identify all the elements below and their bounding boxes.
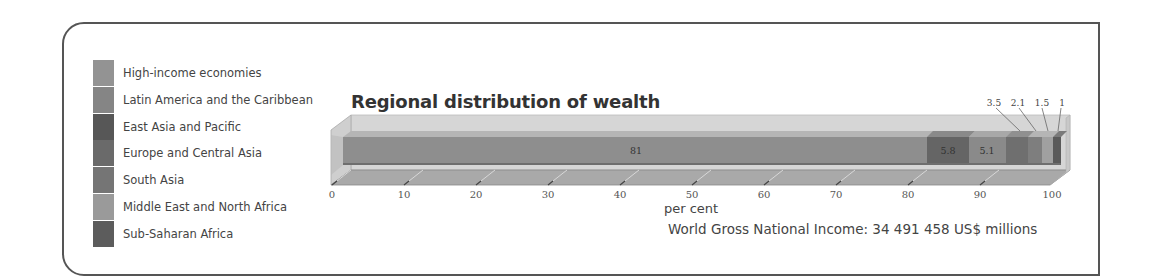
segment-europe-central-asia: [1006, 137, 1028, 165]
segment-south-asia: [1028, 137, 1042, 165]
footer-note: World Gross National Income: 34 491 458 …: [668, 221, 1037, 237]
callout-europe-central-asia: 3.5: [987, 98, 1001, 108]
callout-sub-saharan: 1: [1059, 98, 1065, 108]
x-tick: 30: [542, 189, 555, 200]
x-axis-label: per cent: [664, 201, 718, 216]
x-tick: 70: [830, 189, 843, 200]
x-tick: 20: [470, 189, 483, 200]
segment-sub-saharan: [1053, 137, 1061, 165]
bar-shadow: [343, 163, 1061, 165]
segment-top: [927, 131, 975, 137]
x-tick: 0: [329, 189, 335, 200]
x-tick: 80: [902, 189, 915, 200]
callout-south-asia: 2.1: [1011, 98, 1025, 108]
segment-label-high-income: 81: [630, 145, 642, 156]
segment-label-latin-america: 5.8: [940, 145, 955, 156]
x-tick: 60: [758, 189, 771, 200]
x-tick: 10: [398, 189, 411, 200]
x-tick: 40: [614, 189, 627, 200]
callout-middle-east: 1.5: [1035, 98, 1049, 108]
segment-top: [969, 131, 1012, 137]
x-tick: 90: [974, 189, 987, 200]
segment-label-east-asia: 5.1: [979, 145, 994, 156]
x-tick: 50: [686, 189, 699, 200]
x-tick: 100: [1042, 189, 1061, 200]
floor: [331, 170, 1070, 185]
segment-middle-east: [1042, 137, 1053, 165]
bar-chart-3d: [0, 0, 1159, 280]
